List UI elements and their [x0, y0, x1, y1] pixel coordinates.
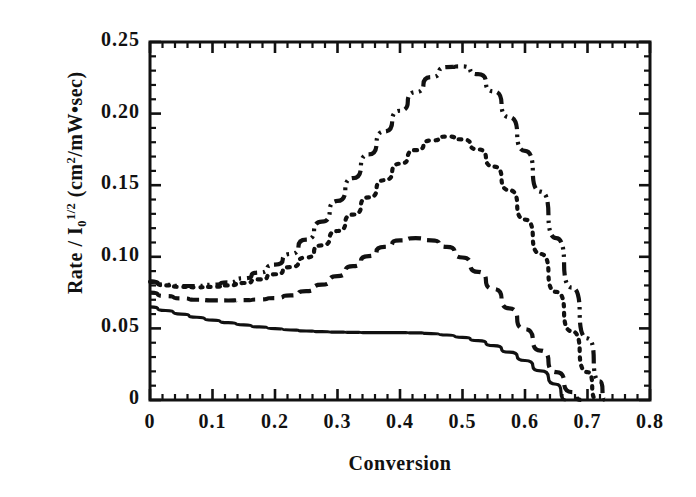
y-tick-label: 0.10 — [60, 243, 140, 266]
y-tick-label: 0.15 — [60, 171, 140, 194]
x-tick-label: 0.4 — [365, 410, 435, 433]
y-tick-label: 0.25 — [60, 28, 140, 51]
chart-figure: Rate / I01/2 (cm2/mW•sec) Conversion 00.… — [0, 0, 696, 497]
axes-frame — [150, 42, 650, 400]
x-tick-label: 0.8 — [615, 410, 685, 433]
x-tick-label: 0.7 — [553, 410, 623, 433]
x-tick-label: 0 — [115, 410, 185, 433]
axis-ticks — [150, 42, 650, 400]
data-curves — [150, 66, 605, 400]
x-tick-label: 0.6 — [490, 410, 560, 433]
x-tick-label: 0.5 — [428, 410, 498, 433]
y-tick-label: 0.05 — [60, 314, 140, 337]
x-tick-label: 0.1 — [178, 410, 248, 433]
y-tick-label: 0 — [60, 386, 140, 409]
y-axis-label-sub: 0 — [75, 220, 89, 227]
y-axis-label-sup2: 2 — [64, 157, 78, 164]
x-tick-label: 0.3 — [303, 410, 373, 433]
curve-solid — [150, 307, 566, 400]
plot-frame — [150, 42, 650, 400]
y-tick-label: 0.20 — [60, 100, 140, 123]
x-axis-label: Conversion — [150, 452, 650, 475]
x-tick-label: 0.2 — [240, 410, 310, 433]
y-axis-label-sup: 1/2 — [64, 203, 78, 220]
